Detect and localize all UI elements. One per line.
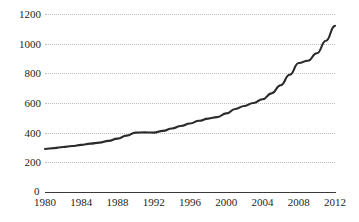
y-tick-label-1200: 1200 [19, 9, 41, 20]
x-tick-label-1980: 1980 [27, 197, 63, 208]
y-tick-label-600: 600 [25, 98, 42, 109]
x-tick-label-2000: 2000 [208, 197, 244, 208]
x-axis-line [45, 192, 336, 193]
x-tick-label-2004: 2004 [245, 197, 281, 208]
x-tick-label-1984: 1984 [63, 197, 99, 208]
y-tick-label-200: 200 [25, 157, 42, 168]
x-tick-label-2008: 2008 [281, 197, 317, 208]
x-tick-label-1988: 1988 [100, 197, 136, 208]
x-tick-label-2012: 2012 [317, 197, 353, 208]
x-tick-label-1992: 1992 [136, 197, 172, 208]
y-tick-label-400: 400 [25, 128, 42, 139]
y-tick-label-1000: 1000 [19, 39, 41, 50]
x-tick-label-1996: 1996 [172, 197, 208, 208]
y-tick-label-800: 800 [25, 68, 42, 79]
plot-area [45, 14, 335, 192]
series-line-layer [45, 14, 335, 192]
series-line-1 [45, 26, 335, 149]
y-tick-label-0: 0 [34, 186, 40, 197]
line-chart: 20040060080010001200 1980198419881992199… [0, 0, 359, 222]
